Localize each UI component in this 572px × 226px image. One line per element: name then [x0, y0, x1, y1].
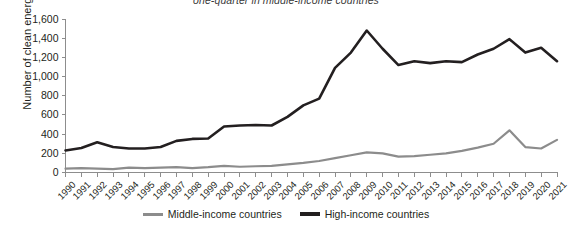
legend-label: High-income countries: [325, 208, 429, 220]
legend-swatch-icon: [300, 212, 320, 215]
legend-label: Middle-income countries: [168, 208, 282, 220]
legend-item[interactable]: High-income countries: [300, 208, 429, 220]
series-line-high-income: [66, 31, 558, 151]
legend-swatch-icon: [143, 213, 163, 216]
chart-figure: one-quarter in middle-income countries N…: [0, 0, 572, 226]
chart-legend: Middle-income countriesHigh-income count…: [0, 208, 572, 220]
legend-item[interactable]: Middle-income countries: [143, 208, 282, 220]
data-series-group: [66, 31, 558, 170]
plot-area: [0, 0, 572, 226]
axis-lines: [62, 19, 559, 177]
